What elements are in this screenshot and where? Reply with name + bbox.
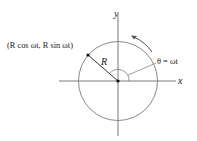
angle-arc (110, 70, 129, 81)
radius-label: R (100, 56, 107, 67)
y-axis-label: y (113, 8, 119, 19)
center-point (116, 79, 119, 82)
x-axis-label: x (177, 75, 183, 86)
angle-leader-line (128, 63, 156, 75)
point-coordinates-label: (R cos ωt, R sin ωt) (7, 41, 73, 50)
moving-point (86, 53, 89, 56)
circular-motion-diagram: y x R (R cos ωt, R sin ωt) θ = ωt (0, 0, 197, 141)
rotation-arrow-icon (134, 37, 152, 52)
angle-label: θ = ωt (157, 57, 178, 66)
